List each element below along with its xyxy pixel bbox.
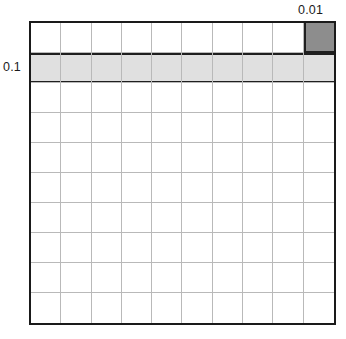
grid-cell — [213, 113, 243, 143]
grid-cell — [243, 173, 273, 203]
grid-cell — [31, 263, 61, 293]
grid-cell — [243, 233, 273, 263]
grid-cell — [213, 263, 243, 293]
grid-cell — [92, 113, 122, 143]
grid-cell — [182, 233, 212, 263]
grid-cell — [213, 203, 243, 233]
grid-cell — [273, 53, 303, 83]
grid-cell — [243, 293, 273, 323]
grid-cell — [213, 293, 243, 323]
grid-cell — [273, 233, 303, 263]
grid-cell — [122, 53, 152, 83]
grid-cell — [31, 203, 61, 233]
grid-cell — [152, 113, 182, 143]
grid-cell — [182, 23, 212, 53]
grid-cell — [213, 143, 243, 173]
grid-cell — [243, 143, 273, 173]
grid-cell — [304, 233, 334, 263]
grid-cell — [61, 293, 91, 323]
grid-cell — [61, 203, 91, 233]
grid-cell — [92, 263, 122, 293]
grid-cell — [122, 263, 152, 293]
grid-cell — [213, 173, 243, 203]
grid-cell — [243, 23, 273, 53]
grid-cell — [243, 83, 273, 113]
grid-cell — [182, 113, 212, 143]
grid-cell — [61, 113, 91, 143]
grid-cell — [122, 233, 152, 263]
grid-cell — [152, 263, 182, 293]
grid-cell — [304, 53, 334, 83]
grid-cell — [182, 143, 212, 173]
grid-cell — [304, 113, 334, 143]
grid-cell — [213, 23, 243, 53]
hundredth-highlight-cell — [304, 23, 334, 53]
grid-cell — [152, 233, 182, 263]
grid-cell — [31, 143, 61, 173]
grid-cell — [92, 203, 122, 233]
grid-cell — [122, 113, 152, 143]
grid-cell — [122, 83, 152, 113]
grid-cell — [182, 293, 212, 323]
grid-cell — [31, 113, 61, 143]
grid-cell — [304, 293, 334, 323]
grid-cell — [243, 53, 273, 83]
grid-cell — [122, 293, 152, 323]
grid-cell — [182, 263, 212, 293]
grid-cell — [122, 23, 152, 53]
grid-cell — [273, 83, 303, 113]
grid-cell — [182, 203, 212, 233]
grid-cell — [152, 143, 182, 173]
grid-cell — [92, 173, 122, 203]
grid-cell — [122, 173, 152, 203]
grid-cell — [31, 173, 61, 203]
grid-cell — [213, 233, 243, 263]
grid-cell — [243, 263, 273, 293]
grid-frame — [29, 21, 336, 325]
grid-cell — [61, 23, 91, 53]
grid-cell — [152, 53, 182, 83]
grid-cell — [92, 143, 122, 173]
grid-cell — [273, 293, 303, 323]
grid-cell — [61, 233, 91, 263]
grid-inner — [31, 23, 334, 323]
grid-cell — [31, 53, 61, 83]
grid-cell — [182, 83, 212, 113]
grid-cell — [31, 233, 61, 263]
grid-cell — [243, 113, 273, 143]
grid-cell — [273, 143, 303, 173]
grid-cell — [61, 83, 91, 113]
grid-cell — [273, 173, 303, 203]
grid-cell — [273, 113, 303, 143]
grid-cell — [92, 83, 122, 113]
grid-cell — [152, 173, 182, 203]
grid-cell — [61, 173, 91, 203]
grid-cell — [182, 173, 212, 203]
grid-cell — [213, 53, 243, 83]
grid-cell — [273, 23, 303, 53]
grid-cell — [304, 143, 334, 173]
grid-cell — [61, 263, 91, 293]
grid-cell — [273, 203, 303, 233]
grid-cell — [243, 203, 273, 233]
grid-cell — [61, 143, 91, 173]
grid-cell — [92, 233, 122, 263]
hundredth-label: 0.01 — [298, 4, 323, 17]
grid-cell — [92, 53, 122, 83]
grid-cell — [152, 293, 182, 323]
grid-cell — [92, 23, 122, 53]
grid-cell-layer — [31, 23, 334, 323]
grid-cell — [31, 293, 61, 323]
figure-canvas: 0.01 0.1 — [0, 0, 346, 339]
grid-cell — [213, 83, 243, 113]
grid-cell — [304, 203, 334, 233]
grid-cell — [304, 173, 334, 203]
grid-cell — [304, 83, 334, 113]
grid-cell — [31, 83, 61, 113]
grid-cell — [31, 23, 61, 53]
grid-cell — [92, 293, 122, 323]
grid-cell — [152, 83, 182, 113]
tenth-label: 0.1 — [3, 61, 21, 74]
grid-cell — [152, 23, 182, 53]
grid-cell — [182, 53, 212, 83]
